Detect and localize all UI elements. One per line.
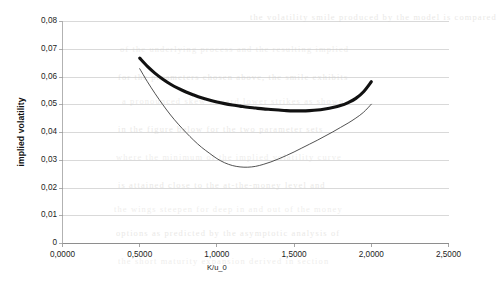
y-tick-label: 0,02 [14, 183, 57, 192]
y-tick-label: 0 [14, 238, 57, 247]
y-tick-label: 0,01 [14, 210, 57, 219]
x-tick-label: 0,5000 [114, 250, 166, 259]
x-tick-label: 1,5000 [268, 250, 320, 259]
x-tick-label: 1,0000 [191, 250, 243, 259]
y-tick-label: 0,06 [14, 72, 57, 81]
x-tick-label: 0,0000 [37, 250, 89, 259]
y-axis-title: implied volatility [16, 89, 26, 175]
series-layer [140, 58, 372, 167]
y-tick-label: 0,08 [14, 16, 57, 25]
series-line-thin-smile [140, 69, 372, 168]
y-tick-label: 0,07 [14, 44, 57, 53]
series-line-thick-smile [140, 58, 372, 111]
x-tick-label: 2,5000 [423, 250, 475, 259]
x-tick-label: 2,0000 [345, 250, 397, 259]
plot-frame [59, 22, 449, 248]
x-axis-title: K/u_0 [177, 263, 257, 272]
gridlines [63, 22, 449, 244]
